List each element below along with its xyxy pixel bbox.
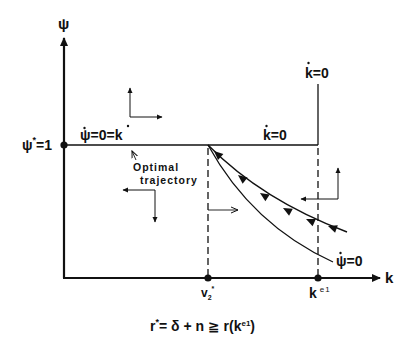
k-symbol: k — [115, 127, 123, 143]
equals-zero: =0 — [347, 253, 363, 269]
v2-star-point — [204, 274, 211, 281]
trajectory-arrow-icon — [258, 190, 270, 202]
k-symbol: k — [309, 285, 317, 301]
psi-dot-zero-eq-k-dot-label: ψ=0=k — [80, 125, 129, 143]
psi-dot-zero-curve-label: ψ=0 — [336, 252, 363, 269]
optimal-pointer-arrow — [132, 151, 136, 160]
phase-arrows-lower-left — [123, 190, 155, 222]
svg-text:k=0: k=0 — [305, 65, 329, 81]
k-symbol: k — [263, 127, 271, 143]
subscript-2: 2 — [208, 294, 212, 301]
optimal-label-line1: Optimal — [133, 161, 179, 173]
formula-close: ) — [250, 318, 255, 334]
phase-arrows-upper-left — [130, 88, 162, 117]
x-axis: k — [63, 269, 394, 286]
k-dot-zero-vertical-label: k=0 — [305, 62, 329, 81]
trajectory-arrow-icon — [236, 172, 248, 184]
equals-zero: =0 — [313, 65, 329, 81]
superscript-e1: e1 — [320, 285, 331, 294]
psi-symbol: ψ — [336, 253, 347, 269]
psi-star-label: ψ*=1 — [22, 135, 52, 153]
svg-text:ψ=0=k: ψ=0=k — [80, 127, 123, 143]
optimal-trajectory-curve — [208, 145, 347, 232]
k-dot-zero-horizontal-label: k=0 — [263, 125, 287, 143]
optimal-label-line2: trajectory — [140, 174, 198, 186]
k-e1-label: ke1 — [309, 285, 331, 301]
psi-symbol: ψ — [80, 127, 91, 143]
superscript-star: * — [212, 285, 215, 292]
svg-text:k=0: k=0 — [263, 127, 287, 143]
phase-arrows-right — [301, 168, 338, 199]
v2-star-label: v2* — [201, 285, 215, 301]
phase-diagram: ψ k — [0, 0, 410, 341]
k-e1-point — [314, 274, 321, 281]
svg-text:ψ=0: ψ=0 — [336, 253, 363, 269]
formula: r*= δ + n ≧ r(ke1) — [150, 317, 255, 334]
x-axis-label: k — [385, 269, 394, 286]
formula-middle: = δ + n ≧ r(k — [159, 318, 242, 334]
psi-star-main: ψ — [22, 137, 33, 153]
y-axis-label: ψ — [58, 15, 69, 32]
psi-star-point — [60, 141, 67, 148]
psi-star-eq: =1 — [36, 137, 52, 153]
k-symbol: k — [305, 65, 313, 81]
equals-zero-equals: =0= — [91, 127, 115, 143]
equals-zero: =0 — [271, 127, 287, 143]
